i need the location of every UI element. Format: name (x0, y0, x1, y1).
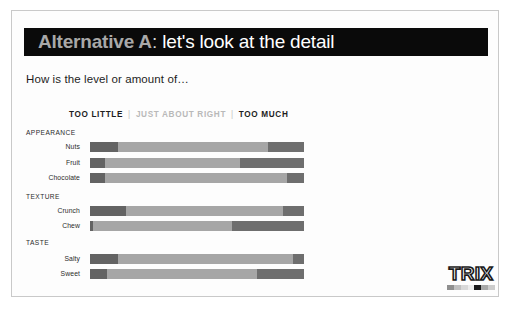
chart-row: Salty (26, 253, 316, 264)
row-label-crunch: Crunch (26, 205, 80, 216)
bar-segment-too-much (240, 158, 304, 168)
bar-segment-too-much (257, 269, 304, 279)
logo-swatch-5 (474, 285, 481, 290)
stacked-bar-chocolate[interactable] (90, 173, 304, 183)
bar-segment-too-much (268, 142, 304, 152)
slide-canvas: Alternative A: let's look at the detail … (11, 10, 499, 297)
bar-segment-too-much (293, 254, 304, 264)
row-label-chew: Chew (26, 220, 80, 231)
bar-segment-too-little (90, 173, 105, 183)
bar-segment-just-about-right (93, 221, 232, 231)
bar-segment-just-about-right (105, 158, 240, 168)
chart-row: Sweet (26, 268, 316, 279)
bar-segment-too-little (90, 206, 126, 216)
chart-row: Nuts (26, 141, 316, 152)
chart-row: Chocolate (26, 172, 316, 183)
trix-logo-swatch-strip (447, 285, 495, 290)
logo-swatch-7 (488, 285, 495, 290)
bar-segment-too-much (287, 173, 304, 183)
logo-swatch-2 (454, 285, 461, 290)
bar-segment-just-about-right (107, 269, 257, 279)
stacked-bar-nuts[interactable] (90, 142, 304, 152)
group-label-texture: TEXTURE (26, 193, 60, 200)
stacked-bar-chew[interactable] (90, 221, 304, 231)
logo-swatch-4 (468, 285, 475, 290)
chart-row: Fruit (26, 157, 316, 168)
stacked-bar-chart: APPEARANCETEXTURETASTENutsFruitChocolate… (12, 11, 500, 298)
trix-logo: TRIX (447, 264, 495, 290)
chart-row: Crunch (26, 205, 316, 216)
bar-segment-too-much (283, 206, 304, 216)
bar-segment-too-little (90, 254, 118, 264)
group-label-taste: TASTE (26, 239, 49, 246)
bar-segment-too-little (90, 142, 118, 152)
bar-segment-too-little (90, 158, 105, 168)
chart-row: Chew (26, 220, 316, 231)
row-label-salty: Salty (26, 253, 80, 264)
bar-segment-too-much (232, 221, 304, 231)
row-label-nuts: Nuts (26, 141, 80, 152)
bar-segment-just-about-right (126, 206, 282, 216)
bar-segment-just-about-right (105, 173, 287, 183)
row-label-chocolate: Chocolate (26, 172, 80, 183)
row-label-sweet: Sweet (26, 268, 80, 279)
stacked-bar-fruit[interactable] (90, 158, 304, 168)
bar-segment-too-little (90, 269, 107, 279)
stacked-bar-crunch[interactable] (90, 206, 304, 216)
trix-logo-wordmark: TRIX (447, 264, 495, 283)
stacked-bar-salty[interactable] (90, 254, 304, 264)
row-label-fruit: Fruit (26, 157, 80, 168)
group-label-appearance: APPEARANCE (26, 129, 76, 136)
logo-swatch-1 (447, 285, 454, 290)
stacked-bar-sweet[interactable] (90, 269, 304, 279)
bar-segment-just-about-right (118, 142, 268, 152)
bar-segment-just-about-right (118, 254, 293, 264)
logo-swatch-6 (481, 285, 488, 290)
logo-swatch-3 (461, 285, 468, 290)
